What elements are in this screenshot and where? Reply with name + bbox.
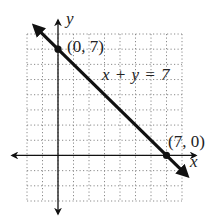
grid-lines xyxy=(27,34,182,201)
y-axis-label: y xyxy=(66,10,74,27)
cut-off-text-above xyxy=(0,0,223,3)
equation-label: x + y = 7 xyxy=(102,66,170,83)
graph-figure: y x (0, 7) (7, 0) x + y = 7 xyxy=(0,0,223,224)
x-axis-label: x xyxy=(190,153,198,170)
point-dot xyxy=(54,46,61,53)
point-label-x-intercept: (7, 0) xyxy=(168,133,205,150)
coordinate-plane xyxy=(0,0,223,224)
point-dot xyxy=(163,152,170,159)
point-label-y-intercept: (0, 7) xyxy=(67,38,104,55)
